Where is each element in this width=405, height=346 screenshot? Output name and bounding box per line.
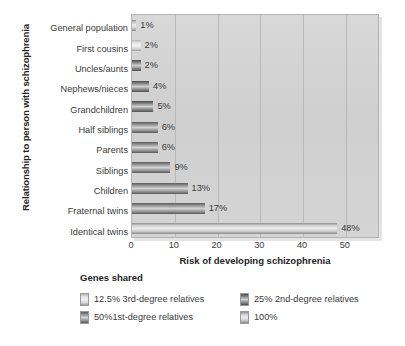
legend-swatch-g125 [80, 293, 89, 306]
x-tick-10: 10 [169, 240, 179, 250]
category-label-1: First cousins [22, 44, 128, 54]
bar-value-label: 13% [192, 183, 210, 194]
category-label-6: Parents [22, 145, 128, 155]
bar-value-label: 6% [162, 142, 175, 153]
legend-label-g50: 50%1st-degree relatives [94, 311, 193, 324]
gridline-40 [303, 15, 304, 237]
bar-value-label: 4% [153, 81, 166, 92]
x-tick-50: 50 [340, 240, 350, 250]
bar-value-label: 5% [157, 101, 170, 112]
bar-value-label: 2% [145, 40, 158, 51]
category-label-7: Siblings [22, 166, 128, 176]
category-label-list: General populationFirst cousinsUncles/au… [22, 18, 128, 240]
x-tick-20: 20 [211, 240, 221, 250]
bar-1 [132, 40, 141, 51]
bar-10 [132, 223, 337, 234]
legend-swatch-g50 [80, 311, 89, 324]
gridline-50 [346, 15, 347, 237]
legend-swatch-g25 [240, 293, 249, 306]
bar-4 [132, 101, 153, 112]
bar-7 [132, 162, 170, 173]
category-label-9: Fraternal twins [22, 206, 128, 216]
x-axis-title: Risk of developing schizophrenia [131, 255, 379, 266]
bar-3 [132, 81, 149, 92]
bar-2 [132, 60, 141, 71]
bar-value-label: 6% [162, 122, 175, 133]
bar-6 [132, 142, 158, 153]
x-axis-tick-labels: 01020304050 [131, 240, 379, 254]
legend-label-g125: 12.5% 3rd-degree relatives [94, 293, 204, 306]
gridline-30 [260, 15, 261, 237]
bar-5 [132, 122, 158, 133]
category-label-8: Children [22, 186, 128, 196]
bar-9 [132, 203, 205, 214]
plot-area: 1%2%2%4%5%6%6%9%13%17%48% [131, 14, 379, 238]
x-tick-40: 40 [297, 240, 307, 250]
legend-label-g100: 100% [254, 311, 278, 324]
category-label-2: Uncles/aunts [22, 64, 128, 74]
schizophrenia-risk-chart: Relationship to person with schizophreni… [0, 0, 405, 346]
category-label-10: Identical twins [22, 227, 128, 237]
bar-8 [132, 183, 188, 194]
legend-label-g25: 25% 2nd-degree relatives [254, 293, 359, 306]
bar-value-label: 2% [145, 60, 158, 71]
bar-value-label: 17% [209, 203, 227, 214]
legend: Genes shared 12.5% 3rd-degree relatives2… [76, 272, 396, 334]
category-label-3: Nephews/nieces [22, 84, 128, 94]
bar-value-label: 48% [341, 223, 359, 234]
legend-title: Genes shared [80, 272, 143, 283]
bar-value-label: 9% [174, 162, 187, 173]
category-label-4: Grandchildren [22, 105, 128, 115]
x-tick-0: 0 [128, 240, 133, 250]
category-label-0: General population [22, 23, 128, 33]
bar-0 [132, 20, 136, 31]
bar-value-label: 1% [140, 20, 153, 31]
legend-swatch-g100 [240, 311, 249, 324]
x-tick-30: 30 [254, 240, 264, 250]
category-label-5: Half siblings [22, 125, 128, 135]
